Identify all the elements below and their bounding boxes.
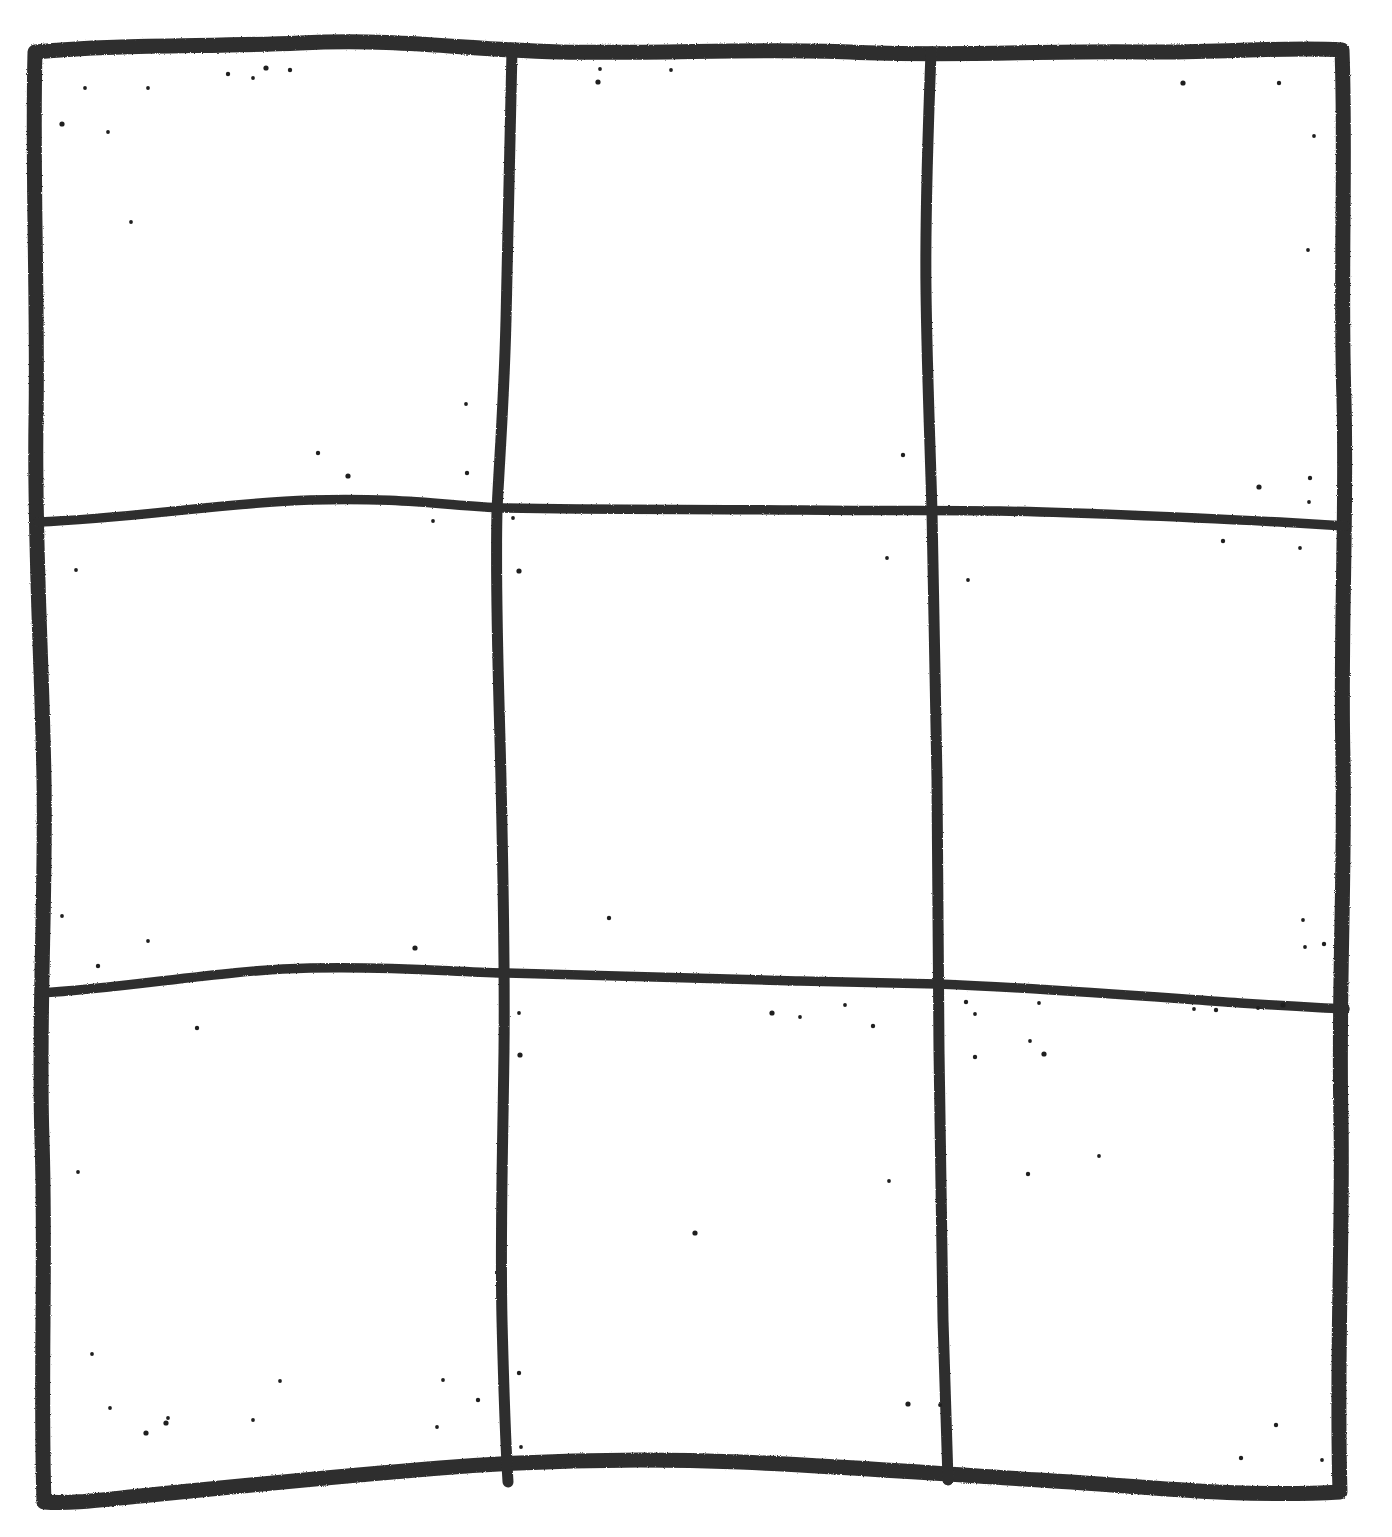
cell-middle-right[interactable] bbox=[942, 520, 1334, 982]
cell-top-right[interactable] bbox=[942, 58, 1334, 510]
cell-top-center[interactable] bbox=[512, 55, 927, 505]
cell-bottom-left[interactable] bbox=[50, 985, 496, 1480]
scanned-page bbox=[0, 0, 1392, 1537]
cell-middle-left[interactable] bbox=[48, 520, 498, 970]
cell-bottom-right[interactable] bbox=[950, 995, 1336, 1475]
cell-bottom-center[interactable] bbox=[512, 985, 930, 1463]
cell-top-left[interactable] bbox=[48, 60, 498, 505]
vertical-divider-1-stroke bbox=[496, 50, 512, 1482]
cell-middle-center[interactable] bbox=[512, 518, 927, 973]
